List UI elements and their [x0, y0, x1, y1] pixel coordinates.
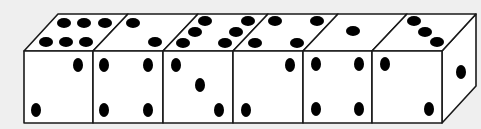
- pip: [290, 38, 304, 48]
- pip: [311, 57, 321, 71]
- pip: [310, 16, 324, 26]
- pip: [188, 27, 202, 37]
- pip: [248, 38, 262, 48]
- pip: [311, 102, 321, 116]
- pip: [77, 18, 91, 28]
- pip: [171, 58, 181, 72]
- pip: [98, 18, 112, 28]
- pip: [354, 102, 364, 116]
- pip: [241, 103, 251, 117]
- pip: [126, 18, 140, 28]
- pip: [143, 58, 153, 72]
- pip: [268, 16, 282, 26]
- pip: [59, 37, 73, 47]
- pip: [79, 37, 93, 47]
- pip: [143, 103, 153, 117]
- pip: [39, 37, 53, 47]
- pip: [214, 103, 224, 117]
- pip: [198, 16, 212, 26]
- pip: [430, 37, 444, 47]
- pip: [229, 27, 243, 37]
- pip: [57, 18, 71, 28]
- pip: [31, 103, 41, 117]
- pip: [176, 38, 190, 48]
- front-faces: [24, 51, 442, 123]
- pip: [456, 65, 466, 79]
- pip: [285, 58, 295, 72]
- pip: [99, 103, 109, 117]
- pip: [148, 37, 162, 47]
- pip: [354, 57, 364, 71]
- pip: [346, 26, 360, 36]
- pip: [195, 78, 205, 92]
- pip: [380, 57, 390, 71]
- pip: [407, 16, 421, 26]
- pip: [418, 27, 432, 37]
- pip: [218, 38, 232, 48]
- dice-row: [0, 0, 481, 129]
- pip: [424, 102, 434, 116]
- pip: [73, 58, 83, 72]
- pip: [241, 16, 255, 26]
- pip: [99, 58, 109, 72]
